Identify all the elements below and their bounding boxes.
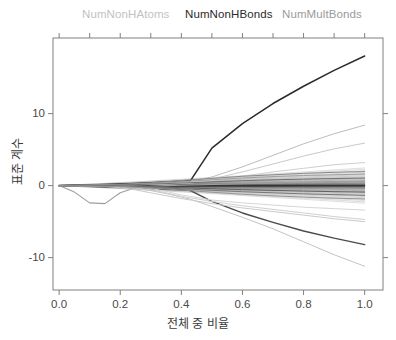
y-axis-label: 표준 계수 xyxy=(8,112,25,212)
x-tick-label: 0.6 xyxy=(222,298,262,310)
plot-area xyxy=(0,0,396,340)
x-tick-label: 0.8 xyxy=(284,298,324,310)
x-tick-label: 0.0 xyxy=(39,298,79,310)
plot-frame xyxy=(53,38,383,290)
x-tick-label: 0.2 xyxy=(100,298,140,310)
x-axis-label: 전체 중 비율 xyxy=(0,314,396,331)
x-tick-label: 1.0 xyxy=(345,298,385,310)
series-lines xyxy=(59,56,365,266)
y-tick-label: -10 xyxy=(11,251,45,263)
coefficient-path-chart: NumNonHAtoms NumNonHBonds NumMultBonds -… xyxy=(0,0,396,340)
x-tick-label: 0.4 xyxy=(161,298,201,310)
